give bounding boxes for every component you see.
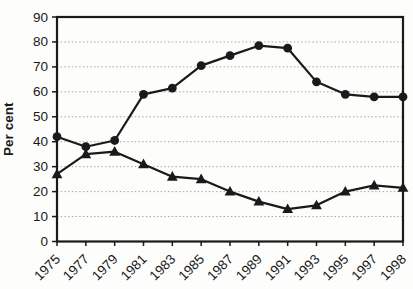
circle-marker [370, 92, 379, 101]
triangle-marker [52, 169, 63, 179]
x-tick-label: 1989 [233, 252, 265, 284]
x-tick-label: 1975 [31, 252, 63, 284]
circle-marker [197, 61, 206, 70]
circle-marker [226, 51, 235, 60]
circle-marker [168, 84, 177, 93]
plot-border [57, 17, 403, 242]
y-tick-label: 60 [33, 84, 48, 99]
circle-marker [53, 132, 62, 141]
line-chart-figure: 0102030405060708090197519771979198119831… [0, 0, 413, 289]
y-tick-label: 90 [33, 10, 48, 25]
lower-series-line [57, 152, 403, 209]
x-tick-label: 1998 [377, 252, 409, 284]
x-tick-label: 1987 [204, 252, 236, 284]
upper-series-line [57, 46, 403, 147]
y-tick-label: 50 [33, 109, 48, 124]
circle-marker [341, 90, 350, 99]
y-axis-title: Per cent [1, 102, 16, 156]
x-tick-label: 1985 [175, 252, 207, 284]
x-tick-label: 1997 [348, 252, 380, 284]
x-tick-label: 1981 [118, 252, 150, 284]
x-tick-label: 1979 [89, 252, 121, 284]
y-tick-label: 30 [33, 159, 48, 174]
y-tick-label: 40 [33, 134, 48, 149]
x-tick-label: 1991 [262, 252, 294, 284]
x-tick-label: 1977 [60, 252, 92, 284]
y-tick-label: 10 [33, 209, 48, 224]
circle-marker [399, 92, 408, 101]
y-tick-label: 0 [40, 234, 48, 249]
x-tick-label: 1993 [291, 252, 323, 284]
triangle-marker [109, 146, 120, 156]
circle-marker [110, 136, 119, 145]
circle-marker [312, 77, 321, 86]
circle-marker [254, 41, 263, 50]
x-tick-label: 1983 [147, 252, 179, 284]
triangle-marker [369, 180, 380, 190]
x-tick-label: 1995 [320, 252, 352, 284]
chart-svg: 0102030405060708090197519771979198119831… [0, 0, 413, 289]
y-tick-label: 70 [33, 59, 48, 74]
y-tick-label: 80 [33, 34, 48, 49]
circle-marker [139, 90, 148, 99]
circle-marker [283, 44, 292, 53]
y-tick-label: 20 [33, 184, 48, 199]
